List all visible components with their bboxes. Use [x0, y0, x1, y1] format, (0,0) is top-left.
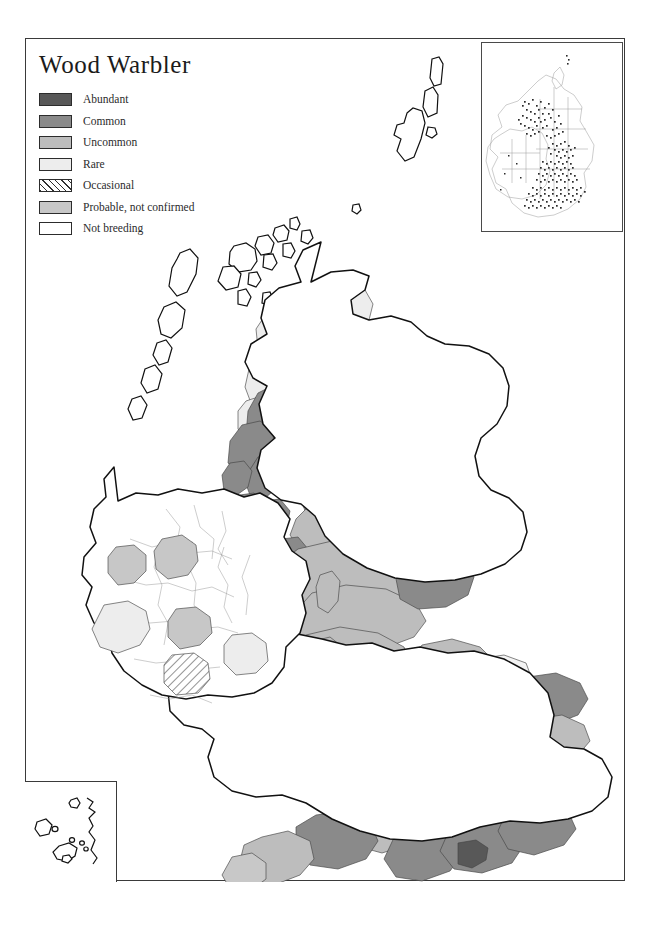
legend-label-abundant: Abundant	[83, 94, 128, 106]
legend-label-uncommon: Uncommon	[83, 137, 137, 149]
legend-item-abundant[interactable]: Abundant	[39, 89, 194, 111]
legend-item-rare[interactable]: Rare	[39, 154, 194, 176]
map-page: Wood Warbler Abundant Common Uncommon Ra…	[0, 0, 657, 926]
legend: Abundant Common Uncommon Rare Occasional	[39, 89, 194, 240]
legend-item-uncommon[interactable]: Uncommon	[39, 132, 194, 154]
offshore-islands-inset	[25, 781, 117, 882]
dot-cluster-group	[500, 55, 586, 209]
region-ireland	[82, 467, 310, 703]
legend-item-common[interactable]: Common	[39, 111, 194, 133]
legend-label-occasional: Occasional	[83, 180, 134, 192]
legend-label-rare: Rare	[83, 159, 105, 171]
legend-swatch-not-breeding	[39, 222, 72, 235]
offshore-islands-svg	[25, 782, 115, 881]
dot-distribution-svg	[482, 43, 622, 231]
legend-swatch-abundant	[39, 93, 72, 106]
legend-label-probable-not-confirmed: Probable, not confirmed	[83, 202, 194, 214]
legend-swatch-probable-not-confirmed	[39, 201, 72, 214]
legend-swatch-rare	[39, 158, 72, 171]
legend-swatch-common	[39, 115, 72, 128]
legend-item-not-breeding[interactable]: Not breeding	[39, 218, 194, 240]
page-title: Wood Warbler	[39, 51, 191, 79]
region-shetland	[394, 57, 443, 161]
legend-label-common: Common	[83, 116, 126, 128]
dot-distribution-inset	[481, 42, 623, 232]
legend-label-not-breeding: Not breeding	[83, 223, 143, 235]
legend-swatch-occasional	[39, 179, 72, 192]
legend-swatch-uncommon	[39, 136, 72, 149]
legend-item-occasional[interactable]: Occasional	[39, 175, 194, 197]
legend-item-probable-not-confirmed[interactable]: Probable, not confirmed	[39, 197, 194, 219]
region-outer-hebrides	[128, 249, 198, 420]
map-frame: Wood Warbler Abundant Common Uncommon Ra…	[25, 38, 625, 881]
